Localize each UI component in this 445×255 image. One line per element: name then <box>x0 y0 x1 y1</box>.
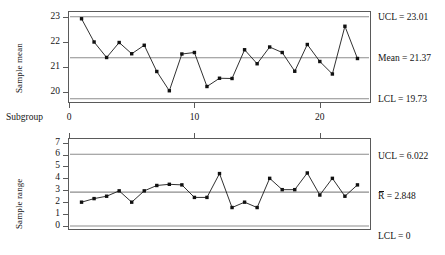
range-data-point <box>331 177 334 180</box>
range-y-tick-label: 5 <box>34 160 60 170</box>
xbar-data-point <box>255 62 258 65</box>
xbar-ucl-label: UCL = 23.01 <box>378 12 428 22</box>
xbar-y-tick-mark <box>63 42 68 43</box>
range-plot-svg <box>69 139 370 229</box>
range-chart-block: Sample range 01234567 UCL = 6.022 R = 2.… <box>0 130 445 255</box>
xbar-data-point <box>205 85 208 88</box>
xbar-y-tick-label: 20 <box>34 86 60 96</box>
range-data-point <box>293 188 296 191</box>
range-data-point <box>105 195 108 198</box>
range-data-point <box>130 200 133 203</box>
range-data-point <box>143 189 146 192</box>
range-ucl-label: UCL = 6.022 <box>378 151 428 161</box>
range-data-point <box>281 188 284 191</box>
xbar-x-tick-mark <box>320 103 321 108</box>
xbar-chart-block: Sample mean 20212223 01020 Subgroup UCL … <box>0 0 445 130</box>
range-y-tick-mark <box>63 226 68 227</box>
range-data-point <box>205 196 208 199</box>
xbar-data-point <box>268 45 271 48</box>
range-y-tick-label: 6 <box>34 148 60 158</box>
range-data-point <box>80 200 83 203</box>
range-data-point <box>92 197 95 200</box>
range-y-tick-label: 1 <box>34 208 60 218</box>
range-data-point <box>306 171 309 174</box>
xbar-data-point <box>318 60 321 63</box>
range-y-tick-label: 3 <box>34 184 60 194</box>
range-y-tick-mark <box>63 202 68 203</box>
xbar-data-point <box>117 41 120 44</box>
xbar-x-tick-label: 10 <box>179 112 209 122</box>
xbar-y-axis-title: Sample mean <box>14 43 24 93</box>
xbar-data-point <box>180 52 183 55</box>
r-bar-symbol: R <box>378 191 384 201</box>
range-data-point <box>193 196 196 199</box>
range-y-tick-mark <box>63 190 68 191</box>
range-y-tick-mark <box>63 155 68 156</box>
xbar-data-point <box>80 17 83 20</box>
xbar-data-point <box>218 77 221 80</box>
xbar-x-tick-mark <box>194 103 195 108</box>
range-y-tick-label: 4 <box>34 172 60 182</box>
range-y-tick-label: 7 <box>34 137 60 147</box>
range-center-line-label: R = 2.848 <box>378 191 416 201</box>
xbar-data-point <box>293 70 296 73</box>
xbar-y-tick-mark <box>63 92 68 93</box>
xbar-y-tick-label: 21 <box>34 61 60 71</box>
range-x-tick-mark <box>320 133 321 138</box>
xbar-x-tick-label: 20 <box>305 112 335 122</box>
range-lcl-label: LCL = 0 <box>378 231 410 241</box>
range-data-point <box>180 183 183 186</box>
range-x-tick-mark <box>194 133 195 138</box>
xbar-data-point <box>193 51 196 54</box>
xbar-data-point <box>331 72 334 75</box>
xbar-data-point <box>92 40 95 43</box>
xbar-data-point <box>155 70 158 73</box>
range-data-point <box>318 193 321 196</box>
range-y-tick-mark <box>63 214 68 215</box>
range-data-point <box>117 189 120 192</box>
xbar-data-point <box>143 44 146 47</box>
range-data-point <box>255 206 258 209</box>
xbar-lcl-label: LCL = 19.73 <box>378 94 427 104</box>
xbar-x-tick-label: 0 <box>54 112 84 122</box>
xbar-data-point <box>343 25 346 28</box>
range-y-tick-mark <box>63 143 68 144</box>
range-data-point <box>268 177 271 180</box>
xbar-y-tick-mark <box>63 67 68 68</box>
xbar-data-point <box>243 48 246 51</box>
xbar-data-point <box>168 89 171 92</box>
range-series-line <box>82 173 358 208</box>
xbar-data-point <box>306 43 309 46</box>
range-data-point <box>168 183 171 186</box>
xbar-data-point <box>130 52 133 55</box>
range-data-point <box>343 195 346 198</box>
range-y-tick-label: 2 <box>34 196 60 206</box>
xbar-center-line-label: Mean = 21.37 <box>378 53 431 63</box>
range-y-tick-label: 0 <box>34 220 60 230</box>
xbar-data-point <box>281 51 284 54</box>
range-y-axis-title: Sample range <box>14 179 24 229</box>
xbar-x-tick-mark <box>69 103 70 108</box>
xbar-x-axis-title: Subgroup <box>6 112 43 122</box>
xbar-plot-area <box>68 11 371 103</box>
range-data-point <box>230 206 233 209</box>
xbar-y-tick-label: 23 <box>34 11 60 21</box>
range-y-tick-mark <box>63 166 68 167</box>
range-data-point <box>243 200 246 203</box>
xbar-data-point <box>356 57 359 60</box>
r-bar-letter: R <box>378 191 384 201</box>
control-chart-figure: Sample mean 20212223 01020 Subgroup UCL … <box>0 0 445 255</box>
range-center-value: = 2.848 <box>384 191 415 201</box>
range-data-point <box>155 184 158 187</box>
range-data-point <box>218 172 221 175</box>
xbar-plot-svg <box>69 12 370 102</box>
xbar-data-point <box>230 77 233 80</box>
range-plot-area <box>68 138 371 230</box>
xbar-y-tick-mark <box>63 17 68 18</box>
range-data-point <box>356 183 359 186</box>
xbar-y-tick-label: 22 <box>34 36 60 46</box>
range-x-tick-mark <box>69 133 70 138</box>
range-y-tick-mark <box>63 178 68 179</box>
xbar-data-point <box>105 56 108 59</box>
